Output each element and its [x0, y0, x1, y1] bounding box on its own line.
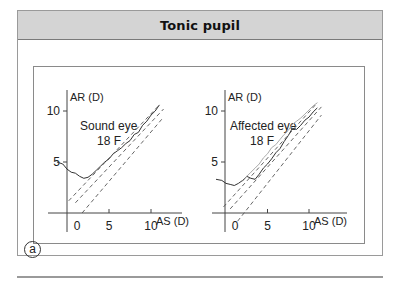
y-tick-label: 5 — [211, 155, 218, 169]
bottom-rule — [17, 276, 383, 278]
y-axis-label: AR (D) — [228, 91, 262, 103]
chart-title: Sound eye — [80, 119, 138, 133]
x-tick-label: 5 — [106, 219, 113, 233]
x-tick-label: 0 — [74, 219, 81, 233]
x-axis-label: AS (D) — [156, 215, 189, 227]
x-tick-label: 5 — [264, 219, 271, 233]
chart-sound-eye: 5100510AR (D)AS (D)Sound eye18 F — [47, 90, 189, 233]
chart-subtitle: 18 F — [97, 134, 121, 148]
chart-subtitle: 18 F — [250, 134, 274, 148]
chart-title: Affected eye — [230, 119, 297, 133]
chart-affected-eye: 5100510AR (D)AS (D)Affected eye18 F — [205, 90, 347, 233]
y-tick-label: 10 — [205, 104, 219, 118]
charts-canvas: 5100510AR (D)AS (D)Sound eye18 F5100510A… — [0, 0, 395, 299]
y-tick-label: 5 — [53, 155, 60, 169]
figure-label-a: a — [24, 241, 41, 258]
y-axis-label: AR (D) — [70, 91, 104, 103]
x-axis-label: AS (D) — [314, 215, 347, 227]
y-tick-label: 10 — [47, 104, 61, 118]
